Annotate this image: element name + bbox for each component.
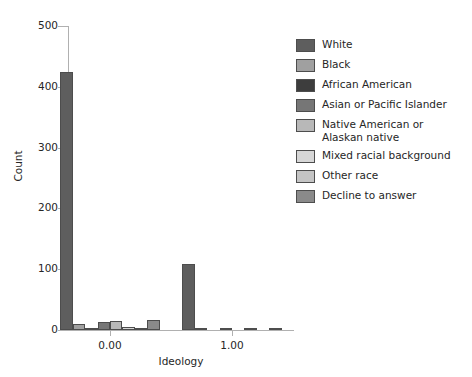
bars-layer: [69, 26, 293, 330]
bar: [269, 328, 281, 330]
x-axis-title: Ideology: [68, 355, 294, 367]
bar: [195, 328, 207, 330]
x-tick-label: 0.00: [98, 339, 121, 351]
legend-item: Asian or Pacific Islander: [296, 98, 468, 112]
legend-label: Black: [322, 58, 350, 71]
y-tick-label: 100: [14, 262, 58, 274]
bar: [73, 324, 85, 330]
legend-label: Mixed racial background: [322, 149, 451, 162]
legend-label: African American: [322, 78, 412, 91]
legend-swatch: [296, 79, 315, 92]
y-tick-label: 400: [14, 80, 58, 92]
legend-label: White: [322, 38, 353, 51]
bar: [98, 322, 110, 331]
legend-label: Asian or Pacific Islander: [322, 98, 447, 111]
y-tick-mark: [58, 330, 68, 331]
bar: [220, 328, 232, 330]
y-tick-label: 500: [14, 19, 58, 31]
x-axis-spine: [68, 330, 294, 331]
bar: [60, 72, 72, 330]
legend-swatch: [296, 170, 315, 183]
y-axis-title: Count: [12, 126, 24, 206]
chart-figure: 0100200300400500 0.001.00 Ideology Count…: [0, 0, 472, 377]
bar: [244, 328, 256, 330]
legend-swatch: [296, 119, 315, 132]
legend-swatch: [296, 150, 315, 163]
legend-swatch: [296, 59, 315, 72]
legend-label: Other race: [322, 169, 378, 182]
legend-swatch: [296, 99, 315, 112]
y-tick-label: 0: [14, 323, 58, 335]
legend-item: Mixed racial background: [296, 149, 468, 163]
bar: [147, 320, 159, 330]
bar: [122, 327, 134, 330]
legend-item: Native American orAlaskan native: [296, 118, 468, 143]
legend-label: Native American orAlaskan native: [322, 118, 423, 143]
y-tick-mark: [58, 26, 68, 27]
legend-item: Decline to answer: [296, 189, 468, 203]
legend-label: Decline to answer: [322, 189, 416, 202]
legend-item: White: [296, 38, 468, 52]
bar: [135, 328, 147, 330]
legend-swatch: [296, 39, 315, 52]
bar: [85, 328, 97, 330]
legend-item: Other race: [296, 169, 468, 183]
legend-item: African American: [296, 78, 468, 92]
bar: [182, 264, 194, 330]
x-tick-mark: [110, 330, 111, 336]
legend-swatch: [296, 190, 315, 203]
legend: WhiteBlackAfrican AmericanAsian or Pacif…: [296, 38, 468, 209]
x-tick-mark: [232, 330, 233, 336]
bar: [110, 321, 122, 330]
legend-item: Black: [296, 58, 468, 72]
x-tick-label: 1.00: [220, 339, 243, 351]
